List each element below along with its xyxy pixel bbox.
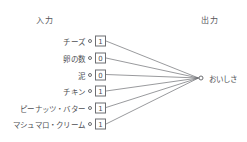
connection-line-4 [106,78,199,108]
diagram-canvas: 入力 出力 チーズ1卵の数0泥0チキン1ピーナッツ・バター1マシュマロ・クリーム… [0,0,247,142]
output-column-header: 出力 [201,14,218,25]
input-label-3: チキン [63,86,85,97]
input-terminal-dot-5[interactable] [88,122,92,126]
input-value-box-4[interactable]: 1 [95,102,106,113]
input-label-1: 卵の数 [63,53,85,64]
input-label-5: マシュマロ・クリーム [13,119,85,130]
input-terminal-dot-2[interactable] [88,73,92,77]
output-node-label: おいしさ [209,73,237,84]
input-value-box-1[interactable]: 0 [95,53,106,64]
input-label-0: チーズ [63,36,85,47]
input-column-header: 入力 [36,14,53,25]
input-terminal-dot-0[interactable] [88,39,92,43]
input-value-box-3[interactable]: 1 [95,86,106,97]
input-terminal-dot-3[interactable] [88,89,92,93]
input-label-4: ピーナッツ・バター [20,102,85,113]
connection-line-3 [106,78,199,91]
input-value-box-2[interactable]: 0 [95,69,106,80]
input-terminal-dot-4[interactable] [88,106,92,110]
input-label-2: 泥 [78,69,85,80]
input-value-box-5[interactable]: 1 [95,119,106,130]
connection-line-5 [106,78,199,124]
connection-line-0 [106,41,199,78]
input-value-box-0[interactable]: 1 [95,36,106,47]
output-node[interactable] [199,76,204,81]
input-terminal-dot-1[interactable] [88,56,92,60]
